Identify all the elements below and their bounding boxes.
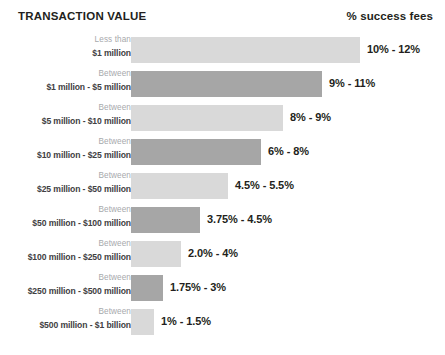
chart-row: Between$1 million - $5 million9% - 11% — [0, 71, 445, 97]
category-label-line2: $10 million - $25 million — [5, 150, 131, 162]
category-label-line2: $500 million - $1 billion — [5, 320, 131, 332]
category-label-line1: Between — [5, 170, 131, 182]
bar — [131, 37, 360, 63]
category-label: Between$500 million - $1 billion — [5, 306, 131, 331]
bar-value-label: 9% - 11% — [329, 77, 375, 89]
bar — [131, 139, 261, 165]
chart-row: Between$50 million - $100 million3.75% -… — [0, 207, 445, 233]
chart-row: Less than$1 million10% - 12% — [0, 37, 445, 63]
bar — [131, 173, 228, 199]
page-title: TRANSACTION VALUE — [18, 10, 146, 22]
category-label-line1: Between — [5, 306, 131, 318]
bar — [131, 309, 154, 335]
category-label: Between$50 million - $100 million — [5, 204, 131, 229]
chart-row: Between$10 million - $25 million6% - 8% — [0, 139, 445, 165]
category-label-line2: $1 million — [5, 48, 131, 60]
category-label-line1: Between — [5, 68, 131, 80]
bar — [131, 275, 163, 301]
chart-row: Between$5 million - $10 million8% - 9% — [0, 105, 445, 131]
category-label: Less than$1 million — [5, 34, 131, 59]
category-label: Between$1 million - $5 million — [5, 68, 131, 93]
category-label-line2: $25 million - $50 million — [5, 184, 131, 196]
category-label: Between$100 million - $250 million — [5, 238, 131, 263]
bar-value-label: 8% - 9% — [290, 111, 331, 123]
bar-value-label: 4.5% - 5.5% — [235, 179, 294, 191]
bar — [131, 105, 283, 131]
chart-row: Between$250 million - $500 million1.75% … — [0, 275, 445, 301]
bar-value-label: 10% - 12% — [367, 43, 420, 55]
bar-value-label: 1% - 1.5% — [161, 315, 211, 327]
chart-row: Between$100 million - $250 million2.0% -… — [0, 241, 445, 267]
bar — [131, 207, 200, 233]
category-label-line1: Between — [5, 136, 131, 148]
value-column-header: % success fees — [347, 10, 433, 22]
bar-chart-plot-area: Less than$1 million10% - 12%Between$1 mi… — [0, 37, 445, 347]
chart-header: TRANSACTION VALUE % success fees — [0, 10, 445, 28]
category-label-line2: $250 million - $500 million — [5, 286, 131, 298]
chart-row: Between$25 million - $50 million4.5% - 5… — [0, 173, 445, 199]
bar-value-label: 1.75% - 3% — [170, 281, 226, 293]
category-label: Between$5 million - $10 million — [5, 102, 131, 127]
category-label-line1: Between — [5, 238, 131, 250]
category-label-line1: Less than — [5, 34, 131, 46]
category-label-line2: $50 million - $100 million — [5, 218, 131, 230]
bar — [131, 241, 181, 267]
category-label: Between$10 million - $25 million — [5, 136, 131, 161]
bar-value-label: 3.75% - 4.5% — [207, 213, 272, 225]
category-label-line2: $1 million - $5 million — [5, 82, 131, 94]
category-label-line1: Between — [5, 204, 131, 216]
category-label: Between$25 million - $50 million — [5, 170, 131, 195]
category-label-line1: Between — [5, 102, 131, 114]
bar — [131, 71, 322, 97]
chart-row: Between$500 million - $1 billion1% - 1.5… — [0, 309, 445, 335]
bar-value-label: 6% - 8% — [268, 145, 309, 157]
category-label-line1: Between — [5, 272, 131, 284]
category-label: Between$250 million - $500 million — [5, 272, 131, 297]
category-label-line2: $5 million - $10 million — [5, 116, 131, 128]
bar-value-label: 2.0% - 4% — [188, 247, 238, 259]
category-label-line2: $100 million - $250 million — [5, 252, 131, 264]
